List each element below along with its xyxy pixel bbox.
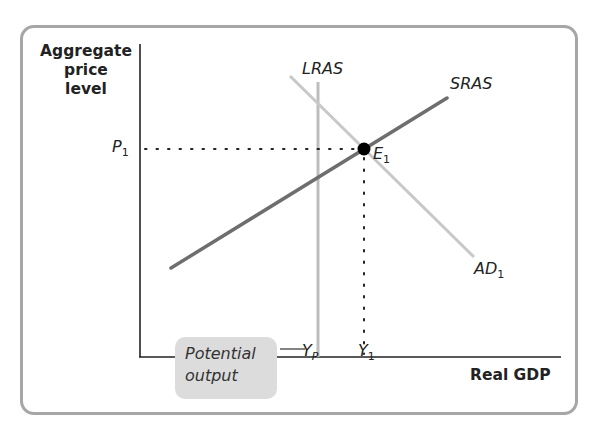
yp-tick-label: YP — [302, 341, 318, 360]
x-axis-label: Real GDP — [470, 366, 551, 384]
note-line-2: output — [185, 366, 238, 385]
sras-curve — [171, 98, 447, 268]
note-line-1: Potential — [185, 344, 256, 363]
ad-label: AD1 — [474, 259, 504, 278]
sras-label: SRAS — [450, 74, 492, 93]
p1-tick-label: P1 — [112, 137, 129, 156]
potential-output-note: Potential output — [175, 337, 277, 399]
equilibrium-point — [358, 143, 371, 156]
y-axis-label: Aggregate price level — [34, 42, 138, 99]
lras-label: LRAS — [302, 59, 343, 78]
equilibrium-label: E1 — [373, 144, 390, 163]
y1-tick-label: Y1 — [358, 341, 375, 360]
